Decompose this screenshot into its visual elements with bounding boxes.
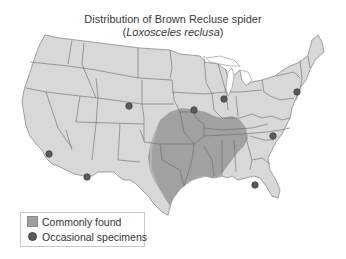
- specimen-dot-new-jersey: [294, 89, 300, 95]
- circle-dot-icon: [28, 232, 37, 241]
- specimen-dot-california: [46, 151, 52, 157]
- specimen-dot-arizona: [84, 174, 90, 180]
- range-commonly-found: [148, 108, 248, 206]
- specimen-dot-north-carolina: [270, 133, 276, 139]
- legend: Commonly found Occasional specimens: [20, 212, 145, 247]
- specimen-dot-illinois: [221, 96, 227, 102]
- specimen-dot-colorado: [126, 103, 132, 109]
- legend-label: Commonly found: [42, 216, 121, 228]
- legend-item-occasional-specimens: Occasional specimens: [27, 231, 147, 243]
- legend-item-commonly-found: Commonly found: [27, 216, 121, 228]
- specimen-dot-iowa: [191, 107, 197, 113]
- square-swatch-icon: [27, 216, 38, 227]
- legend-label: Occasional specimens: [42, 231, 147, 243]
- specimen-dot-florida: [252, 182, 258, 188]
